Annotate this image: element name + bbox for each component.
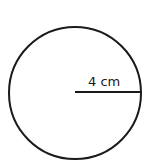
circle-diagram: 4 cm: [0, 0, 159, 168]
radius-label: 4 cm: [88, 74, 120, 89]
